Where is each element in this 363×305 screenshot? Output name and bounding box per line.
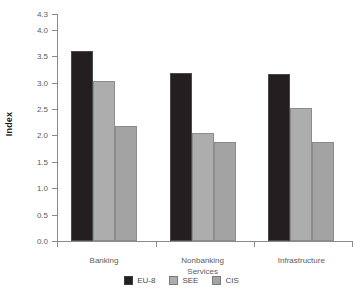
- y-axis-tick-label: 2.0: [37, 131, 48, 140]
- x-axis-category-label: Banking: [90, 255, 119, 266]
- y-axis-tick-label: 2.5: [37, 105, 48, 114]
- x-axis-category-label: Nonbanking Services: [181, 255, 224, 277]
- y-axis-tick-label: 4.0: [37, 25, 48, 34]
- legend-swatch: [124, 276, 133, 285]
- y-axis-tick-label: 0.5: [37, 210, 48, 219]
- legend-swatch: [169, 276, 178, 285]
- legend-label: CIS: [225, 276, 238, 285]
- legend-item: SEE: [169, 276, 198, 285]
- y-axis-tick-label: 1.5: [37, 157, 48, 166]
- y-axis-tick: [52, 109, 57, 110]
- bar-chart: Index 0.00.51.01.52.02.53.03.54.04.3 Ban…: [0, 0, 363, 305]
- y-axis-tick-label: 4.3: [37, 10, 48, 19]
- bar: [71, 51, 93, 241]
- y-axis-tick-label: 1.0: [37, 184, 48, 193]
- bar: [214, 142, 236, 241]
- bar: [290, 108, 312, 241]
- y-axis-title-label: Index: [4, 112, 14, 137]
- legend-item: CIS: [212, 276, 238, 285]
- y-axis-tick: [52, 56, 57, 57]
- legend-label: SEE: [182, 276, 198, 285]
- y-axis-tick-label: 0.0: [37, 237, 48, 246]
- y-axis-tick: [52, 188, 57, 189]
- y-axis-tick: [52, 30, 57, 31]
- bar: [312, 142, 334, 241]
- bar: [268, 74, 290, 241]
- y-axis-title: Index: [0, 0, 18, 248]
- x-axis-tick: [352, 242, 353, 247]
- chart-legend: EU-8SEECIS: [0, 276, 363, 285]
- x-axis-tick: [57, 242, 58, 247]
- y-axis-tick-label: 3.5: [37, 52, 48, 61]
- bar: [93, 81, 115, 241]
- x-axis-tick: [254, 242, 255, 247]
- plot-area: 0.00.51.01.52.02.53.03.54.04.3 BankingNo…: [57, 14, 353, 242]
- y-axis-tick: [52, 215, 57, 216]
- bar: [170, 73, 192, 241]
- y-axis-tick: [52, 83, 57, 84]
- y-axis-tick: [52, 14, 57, 15]
- legend-item: EU-8: [124, 276, 155, 285]
- x-axis-tick: [156, 242, 157, 247]
- bar: [192, 133, 214, 241]
- y-axis-tick: [52, 135, 57, 136]
- x-axis-category-label: Infrastructure: [278, 255, 325, 266]
- bar: [115, 126, 137, 241]
- legend-swatch: [212, 276, 221, 285]
- y-axis-tick-label: 3.0: [37, 78, 48, 87]
- y-axis-line: [57, 14, 58, 242]
- x-axis-line: [57, 241, 353, 242]
- y-axis-tick: [52, 162, 57, 163]
- legend-label: EU-8: [137, 276, 155, 285]
